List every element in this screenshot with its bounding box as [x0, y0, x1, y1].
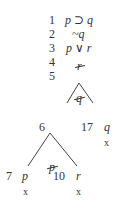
formula: p ∨ r: [66, 42, 91, 54]
formula-ticked: q: [76, 92, 82, 104]
line-number: 3: [49, 42, 55, 54]
line-number: 6: [39, 121, 45, 133]
formula: ~q: [72, 28, 85, 40]
formula: p: [22, 170, 28, 182]
formula-ticked: r: [77, 60, 82, 72]
line-number: 2: [49, 28, 55, 40]
closed-branch-mark: x: [76, 186, 81, 198]
branch-line-7: [28, 133, 50, 166]
formula: p ⊃ q: [65, 14, 93, 26]
formula: r: [76, 170, 81, 182]
line-number: 1: [49, 14, 55, 26]
line-number: 4: [49, 56, 55, 68]
line-number: 7: [6, 170, 12, 182]
line-number: 17: [81, 121, 93, 133]
line-number: 10: [53, 170, 65, 182]
closed-branch-mark: x: [23, 186, 28, 198]
closed-branch-mark: x: [104, 137, 109, 149]
formula: q: [104, 121, 110, 133]
line-number: 5: [49, 70, 55, 82]
